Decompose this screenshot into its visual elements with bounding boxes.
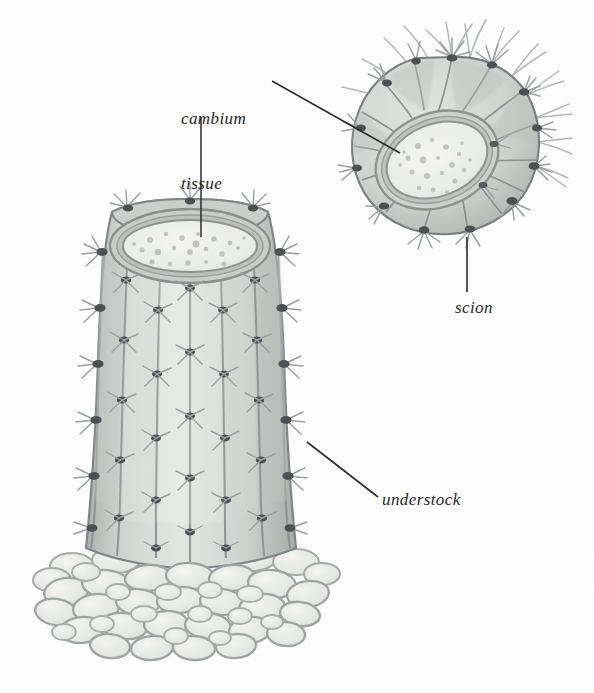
label-cambium-line1: cambium: [181, 108, 246, 130]
understock-specimen: [74, 183, 307, 568]
label-understock: understock: [382, 489, 461, 511]
illustration-figure: cambium tissue scion understock: [0, 0, 594, 693]
illustration-canvas: [0, 0, 594, 693]
label-scion: scion: [455, 297, 493, 319]
label-cambium-tissue: cambium tissue: [181, 64, 246, 238]
label-cambium-line2: tissue: [181, 173, 246, 195]
